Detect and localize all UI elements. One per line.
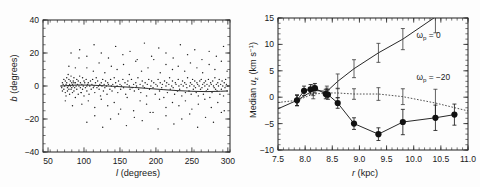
scatter-point [94, 92, 95, 93]
scatter-point [86, 122, 87, 123]
scatter-point [80, 92, 81, 93]
scatter-point [171, 85, 172, 86]
scatter-point [208, 85, 209, 86]
scatter-point [216, 56, 217, 57]
scatter-point [164, 80, 165, 81]
scatter-point [160, 72, 161, 73]
scatter-point [221, 112, 222, 113]
scatter-point [139, 100, 140, 101]
scatter-point [125, 94, 126, 95]
scatter-point [168, 84, 169, 85]
scatter-point [119, 84, 120, 85]
scatter-point [225, 79, 226, 80]
scatter-point [219, 94, 220, 95]
left-y-ticklabel: 40 [29, 15, 39, 25]
scatter-point [208, 64, 209, 65]
scatter-point [142, 80, 143, 81]
scatter-point [163, 97, 164, 98]
scatter-point [196, 67, 197, 68]
scatter-point [94, 107, 95, 108]
scatter-point [134, 117, 135, 118]
scatter-point [213, 87, 214, 88]
right-plot-group: 7.58.08.59.09.510.010.511.0−10−5051015ωp… [259, 1, 476, 164]
scatter-point [135, 61, 136, 62]
right-x-ticklabel: 9.5 [381, 154, 393, 164]
scatter-point [165, 85, 166, 86]
right-plot-svg: 7.58.08.59.09.510.010.511.0−10−5051015ωp… [240, 0, 480, 187]
observed-median-point [325, 91, 331, 97]
scatter-point [211, 84, 212, 85]
scatter-point [224, 82, 225, 83]
scatter-point [159, 98, 160, 99]
scatter-point [68, 79, 69, 80]
scatter-point [217, 82, 218, 83]
scatter-point [221, 61, 222, 62]
scatter-point [207, 89, 208, 90]
scatter-point [175, 84, 176, 85]
scatter-point [217, 102, 218, 103]
scatter-point [155, 84, 156, 85]
observed-median-point [351, 121, 357, 127]
scatter-point [123, 64, 124, 65]
scatter-point [165, 64, 166, 65]
scatter-point [184, 82, 185, 83]
right-y-ticklabel: −10 [259, 145, 274, 155]
scatter-point [110, 79, 111, 80]
right-xaxis-title: r (kpc) [352, 168, 378, 178]
scatter-point [178, 105, 179, 106]
scatter-point [151, 56, 152, 57]
scatter-point [73, 77, 74, 78]
scatter-point [138, 89, 139, 90]
scatter-point [224, 110, 225, 111]
scatter-point [151, 80, 152, 81]
scatter-point [96, 77, 97, 78]
scatter-point [152, 87, 153, 88]
panel-median-uz: 7.58.08.59.09.510.010.511.0−10−5051015ωp… [240, 0, 480, 187]
scatter-point [108, 84, 109, 85]
observed-median-point [400, 119, 406, 125]
scatter-point [133, 84, 134, 85]
scatter-point [213, 122, 214, 123]
scatter-point [175, 82, 176, 83]
scatter-point [65, 84, 66, 85]
scatter-point [65, 100, 66, 101]
scatter-point [69, 94, 70, 95]
scatter-point [70, 75, 71, 76]
scatter-point [137, 77, 138, 78]
scatter-point [191, 84, 192, 85]
left-y-ticklabel: −20 [24, 114, 39, 124]
scatter-point [92, 79, 93, 80]
scatter-point [206, 84, 207, 85]
scatter-point [86, 56, 87, 57]
scatter-point [204, 98, 205, 99]
scatter-point [210, 82, 211, 83]
left-yaxis-title: b (degrees) [9, 55, 19, 102]
scatter-point [131, 79, 132, 80]
scatter-point [209, 97, 210, 98]
scatter-point [211, 107, 212, 108]
observed-median-point [312, 85, 318, 91]
scatter-point [153, 59, 154, 60]
scatter-point [116, 69, 117, 70]
scatter-point [161, 87, 162, 88]
scatter-point [167, 92, 168, 93]
right-yaxis-title: Median uz (km s−1) [247, 42, 259, 118]
scatter-point [135, 82, 136, 83]
scatter-point [221, 80, 222, 81]
scatter-point [66, 82, 67, 83]
scatter-point [114, 87, 115, 88]
scatter-point [82, 77, 83, 78]
scatter-point [158, 47, 159, 48]
scatter-point [165, 115, 166, 116]
scatter-point [191, 108, 192, 109]
scatter-point [141, 70, 142, 71]
scatter-point [126, 84, 127, 85]
scatter-point [63, 79, 64, 80]
scatter-point [72, 92, 73, 93]
scatter-point [129, 51, 130, 52]
scatter-point [118, 113, 119, 114]
scatter-point [65, 80, 66, 81]
scatter-point [146, 103, 147, 104]
scatter-point [198, 85, 199, 86]
scatter-point [169, 77, 170, 78]
